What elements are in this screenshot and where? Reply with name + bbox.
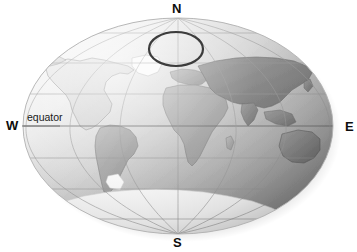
compass-label-east: E xyxy=(345,120,354,133)
world-map-figure: N S W E equator xyxy=(0,0,357,252)
compass-label-west: W xyxy=(6,119,18,132)
compass-label-south: S xyxy=(173,236,182,249)
globe-graphic xyxy=(0,0,357,252)
equator-label: equator xyxy=(27,112,63,123)
globe-shading-overlay xyxy=(23,18,333,234)
compass-label-north: N xyxy=(172,2,181,15)
